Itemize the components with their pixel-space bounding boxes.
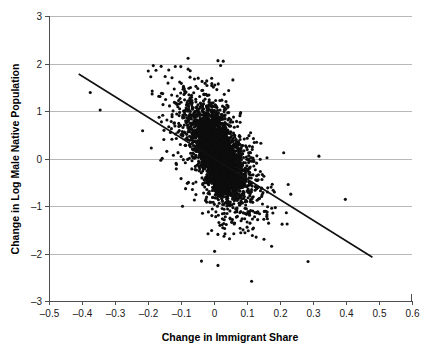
x-tick-label-0.4: 0.4: [340, 308, 354, 319]
x-tick-label-0.3: 0.3: [307, 308, 321, 319]
y-tick-label--2: –2: [31, 249, 43, 260]
x-tick-label-0.1: 0.1: [241, 308, 255, 319]
x-tick-label--0.2: –0.2: [139, 308, 159, 319]
scatter-plot-figure: 3210–1–2–3 –0.5–0.4–0.3–0.2–0.100.10.20.…: [0, 0, 438, 352]
x-tick-label-0.5: 0.5: [373, 308, 387, 319]
x-tick-label-0: 0: [212, 308, 218, 319]
y-tick-label--1: –1: [31, 201, 43, 212]
x-tick-label--0.1: –0.1: [172, 308, 192, 319]
x-axis-title: Change in Immigrant Share: [162, 331, 299, 343]
x-tick-label-0.6: 0.6: [406, 308, 420, 319]
x-tick-label--0.3: –0.3: [106, 308, 126, 319]
y-tick-label-2: 2: [36, 59, 42, 70]
x-tick-label--0.5: –0.5: [40, 308, 60, 319]
chart-canvas: 3210–1–2–3 –0.5–0.4–0.3–0.2–0.100.10.20.…: [0, 0, 438, 352]
x-tick-label--0.4: –0.4: [73, 308, 93, 319]
y-tick-label--3: –3: [31, 296, 43, 307]
y-tick-label-3: 3: [36, 11, 42, 22]
y-axis-title: Change in Log Male Native Population: [9, 64, 21, 255]
y-tick-label-1: 1: [36, 106, 42, 117]
x-tick-label-0.2: 0.2: [274, 308, 288, 319]
y-tick-label-0: 0: [36, 154, 42, 165]
